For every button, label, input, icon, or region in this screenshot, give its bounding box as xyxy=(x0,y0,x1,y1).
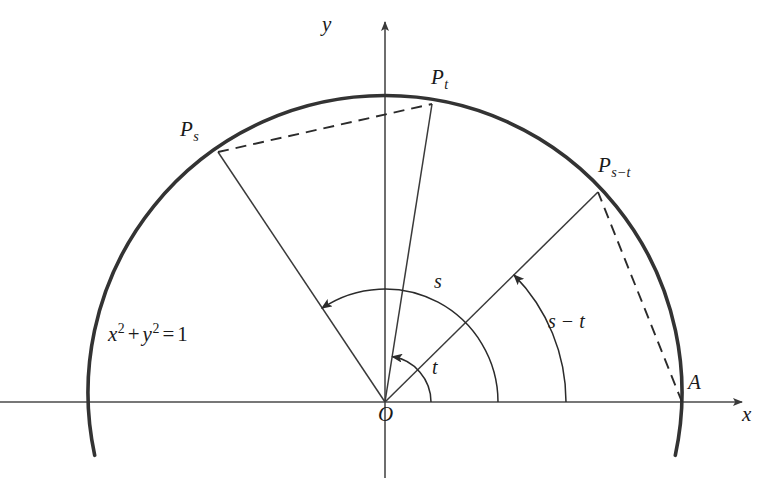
point-subscript-Pt: t xyxy=(444,76,448,92)
radius-Pt xyxy=(385,104,432,402)
equation-value: 1 xyxy=(177,322,188,346)
equation-var2: y xyxy=(143,322,152,346)
radius-Ps xyxy=(218,152,385,402)
angle-label-s: s xyxy=(434,271,442,291)
origin-label: O xyxy=(378,404,393,425)
y-axis-label: y xyxy=(322,14,331,35)
figure-canvas: y x O Ps Pt Ps−t A t s s − t x2+y2=1 xyxy=(0,0,772,488)
point-label-Pt: Pt xyxy=(431,67,448,91)
point-subscript-Ps: s xyxy=(193,128,199,144)
angle-arc-s xyxy=(322,289,498,402)
equation-plus: + xyxy=(125,322,143,346)
point-base-Pt: P xyxy=(431,65,444,89)
point-base-Ps-minus-t: P xyxy=(598,153,611,177)
equation-equals: = xyxy=(159,322,177,346)
point-subscript-Ps-minus-t: s−t xyxy=(611,164,631,180)
point-label-Ps-minus-t: Ps−t xyxy=(598,155,630,179)
circle-equation: x2+y2=1 xyxy=(108,322,188,345)
point-label-A: A xyxy=(688,372,701,393)
chord-A-Ps-minus-t xyxy=(598,192,682,402)
point-label-Ps: Ps xyxy=(180,119,199,143)
angle-label-s-minus-t: s − t xyxy=(548,311,585,331)
radius-Ps-minus-t xyxy=(385,192,598,402)
angle-arc-s-minus-t xyxy=(514,275,566,402)
x-axis-label: x xyxy=(742,404,751,425)
equation-var1: x xyxy=(108,322,117,346)
equation-exponent1: 2 xyxy=(117,321,124,336)
point-base-Ps: P xyxy=(180,117,193,141)
angle-label-t: t xyxy=(432,357,438,377)
